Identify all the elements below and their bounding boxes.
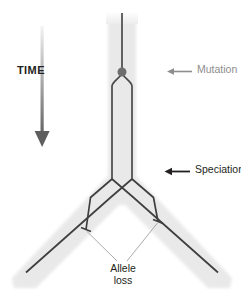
allele-loss-label: Allele loss — [100, 263, 146, 287]
gene-tree-figure: TIME Mutation Speciation Allele loss — [0, 0, 241, 303]
speciation-callout-arrow — [165, 168, 191, 175]
leader-line-right — [127, 223, 158, 261]
speciation-label: Speciation — [195, 164, 241, 176]
mutation-label: Mutation — [197, 64, 237, 76]
time-arrow-shaft — [41, 26, 44, 136]
lineage-allele-a-to-right-species — [112, 179, 218, 273]
mutation-arrow-head-icon — [167, 68, 174, 75]
allele-loss-label-line1: Allele — [100, 263, 146, 275]
mutation-dot-icon — [118, 68, 127, 77]
allele-loss-leader-lines — [87, 223, 158, 261]
mutation-callout-arrow — [167, 68, 192, 75]
speciation-arrow-head-icon — [165, 168, 173, 175]
time-arrow-head — [35, 131, 50, 147]
diagram-canvas — [0, 0, 241, 303]
lineage-allele-b-to-left-species — [26, 179, 132, 273]
time-arrow — [35, 26, 50, 147]
time-axis-label: TIME — [17, 64, 45, 76]
allele-loss-label-line2: loss — [100, 275, 146, 287]
leader-line-left — [87, 231, 118, 261]
